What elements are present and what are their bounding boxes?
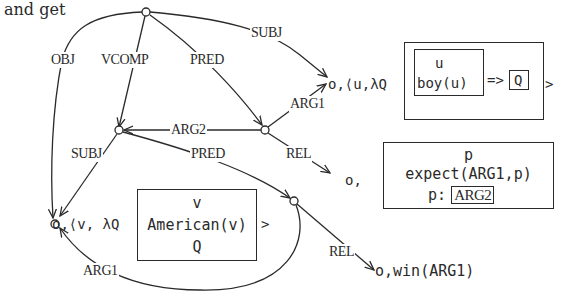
semantic-graph-diagram: and get OBJ VCOMP PRED SUBJ ARG1 ARG2 SU…	[0, 0, 561, 301]
edge-label-obj: OBJ	[50, 52, 75, 68]
drs-q: Q	[514, 72, 522, 88]
node-expect-prefix: o,	[345, 172, 362, 188]
edge-label-pred-top: PRED	[189, 52, 225, 68]
drs-box-u: u boy(u) => Q	[404, 42, 544, 120]
edge-label-pred-mid: PRED	[190, 146, 226, 162]
edge-label-arg1-top: ARG1	[289, 96, 326, 112]
drs-box-expect: p expect(ARG1,p) p: ARG2	[383, 142, 554, 209]
drs-cond-expect: expect(ARG1,p)	[405, 165, 531, 183]
node-v-close: >	[261, 216, 269, 232]
drs-cond-american: American(v)	[147, 216, 246, 234]
drs-box-q: Q	[509, 70, 529, 90]
node-win: o,win(ARG1)	[375, 263, 474, 279]
drs-ref-u: u	[435, 55, 443, 71]
edge-label-rel-mid: REL	[285, 146, 312, 162]
implication-arrow: =>	[487, 72, 504, 88]
edge-label-subj-mid: SUBJ	[70, 146, 103, 162]
edge-label-arg2: ARG2	[170, 122, 207, 138]
drs-inner-box-boy: u boy(u)	[414, 49, 484, 96]
edge-label-rel-bottom: REL	[328, 244, 355, 260]
drs-cond-boy: boy(u)	[417, 75, 468, 91]
node-u-prefix: o,⟨u,λQ	[328, 76, 387, 92]
node-u-close: >	[545, 76, 553, 92]
drs-ref-p: p	[464, 146, 473, 164]
drs-ref-v: v	[192, 194, 201, 212]
drs-p-label: p:	[428, 186, 446, 204]
edge-label-vcomp: VCOMP	[100, 52, 149, 68]
node-v-prefix: o,⟨v, λQ	[52, 216, 119, 232]
intro-text: and get	[4, 2, 65, 18]
drs-q-v: Q	[192, 238, 201, 256]
edge-label-arg1-bottom: ARG1	[82, 263, 119, 279]
edge-label-subj-top: SUBJ	[250, 25, 283, 41]
drs-p-arg2-box: ARG2	[451, 186, 494, 204]
drs-box-american: v American(v) Q	[137, 189, 257, 261]
